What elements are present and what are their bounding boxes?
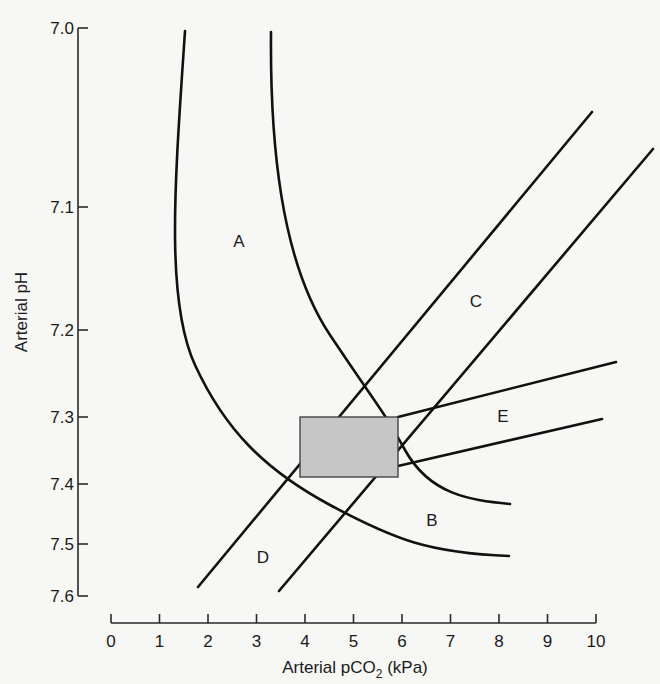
region-label-e: E xyxy=(497,407,508,426)
region-label-b: B xyxy=(426,511,437,530)
x-axis: 012345678910 xyxy=(106,614,605,651)
y-tick-label: 7.6 xyxy=(50,587,74,606)
x-tick-label: 0 xyxy=(106,632,115,651)
x-axis-title-unit: (kPa) xyxy=(382,658,427,677)
x-tick-label: 5 xyxy=(349,632,358,651)
chart-canvas: 7.07.17.27.37.47.57.6 012345678910 ABCDE… xyxy=(0,0,660,684)
x-tick-label: 1 xyxy=(155,632,164,651)
x-tick-label: 10 xyxy=(587,632,606,651)
y-axis-title: Arterial pH xyxy=(12,272,31,352)
region-label-c: C xyxy=(470,292,482,311)
x-tick-label: 3 xyxy=(252,632,261,651)
y-tick-label: 7.2 xyxy=(50,321,74,340)
y-tick-label: 7.1 xyxy=(50,198,74,217)
y-tick-label: 7.5 xyxy=(50,535,74,554)
curve-3 xyxy=(198,112,592,587)
x-tick-label: 6 xyxy=(397,632,406,651)
plot-curves xyxy=(175,31,653,591)
x-axis-title-main: Arterial pCO xyxy=(282,658,376,677)
x-tick-label: 7 xyxy=(446,632,455,651)
y-axis: 7.07.17.27.37.47.57.6 xyxy=(50,19,88,606)
acid-base-diagram: 7.07.17.27.37.47.57.6 012345678910 ABCDE… xyxy=(0,0,660,684)
x-tick-label: 4 xyxy=(300,632,309,651)
y-tick-label: 7.3 xyxy=(50,408,74,427)
region-label-d: D xyxy=(257,548,269,567)
normal-range-box xyxy=(300,417,398,477)
x-tick-label: 9 xyxy=(543,632,552,651)
x-axis-title: Arterial pCO2 (kPa) xyxy=(282,658,428,681)
curve-6 xyxy=(398,419,602,466)
x-tick-label: 8 xyxy=(494,632,503,651)
region-label-a: A xyxy=(233,232,245,251)
y-tick-label: 7.4 xyxy=(50,475,74,494)
x-tick-label: 2 xyxy=(203,632,212,651)
y-tick-label: 7.0 xyxy=(50,19,74,38)
curve-4 xyxy=(279,149,653,591)
